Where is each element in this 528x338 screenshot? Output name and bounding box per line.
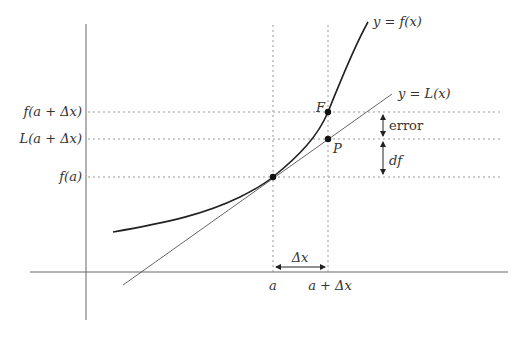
delta-x-label: Δx [291,250,309,265]
guide-lines [88,25,500,272]
curve-label: y = f(x) [372,14,422,29]
error-label: error [389,118,424,133]
x-label-a-dx: a + Δx [308,278,352,293]
point-P-label: P [332,141,342,156]
df-label: df [389,153,404,168]
point-F [325,109,331,115]
point-P [325,136,331,142]
point-F-label: F [315,100,326,115]
linear-approximation-diagram: y = f(x) y = L(x) f(a + Δx) L(a + Δx) f(… [0,0,528,338]
function-curve [113,22,368,232]
diagram-canvas: y = f(x) y = L(x) f(a + Δx) L(a + Δx) f(… [0,0,528,338]
tangent-line [123,94,392,285]
y-label-f-a-dx: f(a + Δx) [22,104,82,119]
y-label-f-a: f(a) [58,169,82,184]
x-label-a: a [269,278,277,293]
y-label-L-a-dx: L(a + Δx) [19,131,82,146]
point-a [270,174,276,180]
tangent-label: y = L(x) [397,86,451,101]
